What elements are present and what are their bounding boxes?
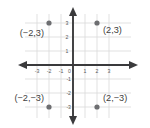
point-label-2-neg3: (2,−3) [103, 93, 127, 103]
x-tick-label--2: -2 [47, 68, 52, 74]
data-point-neg2-3 [46, 20, 51, 25]
y-tick-label--1: -1 [66, 76, 71, 82]
data-point-2-neg3 [94, 104, 99, 109]
x-tick-label-3: 3 [108, 68, 111, 74]
x-axis-arrow-left-icon [18, 61, 27, 69]
point-label-neg2-neg3: (−2,−3) [14, 93, 44, 103]
coordinate-plane-svg: -3 -2 -1 0 1 2 3 3 2 1 -1 -2 -3 (−2,3) (… [0, 0, 150, 128]
y-tick-label-1: 1 [66, 48, 69, 54]
y-axis-arrow-down-icon [69, 116, 77, 125]
x-tick-label--1: -1 [59, 68, 64, 74]
data-point-2-3 [94, 20, 99, 25]
y-axis-arrow-up-icon [69, 7, 77, 16]
x-tick-label--3: -3 [35, 68, 40, 74]
data-point-neg2-neg3 [46, 104, 51, 109]
y-tick-label--3: -3 [66, 104, 71, 110]
point-label-neg2-3: (−2,3) [20, 28, 44, 38]
x-axis-arrow-right-icon [129, 61, 138, 69]
coordinate-plane-figure: -3 -2 -1 0 1 2 3 3 2 1 -1 -2 -3 (−2,3) (… [0, 0, 150, 128]
y-tick-label-3: 3 [66, 20, 69, 26]
x-tick-label-1: 1 [84, 68, 87, 74]
x-tick-label-2: 2 [96, 68, 99, 74]
y-tick-label-2: 2 [66, 34, 69, 40]
y-tick-label--2: -2 [66, 90, 71, 96]
point-label-2-3: (2,3) [103, 25, 122, 35]
origin-tick-label: 0 [68, 68, 71, 74]
